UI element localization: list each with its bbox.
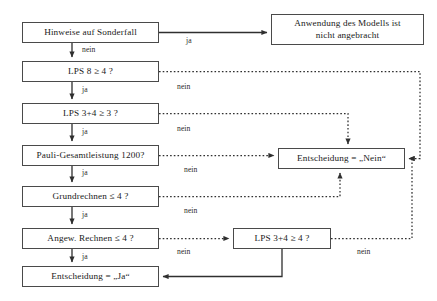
node-lps-8-ge-4[interactable]: LPS 8 ≥ 4 ? [22,61,159,82]
edge-lps34-4-nein [331,159,412,239]
node-entscheidung-ja[interactable]: Entscheidung = „Ja“ [22,266,159,287]
node-angew-rechnen-le-4[interactable]: Angew. Rechnen ≤ 4 ? [22,228,159,249]
node-anwendung-nicht-angebracht[interactable]: Anwendung des Modells ist nicht angebrac… [271,14,424,45]
edge-label-ja-lps8: ja [82,85,88,94]
edge-label-nein-lps34-4: nein [357,247,370,256]
node-lps-3plus4-ge-4[interactable]: LPS 3+4 ≥ 4 ? [233,228,331,249]
edge-label-nein-lps34-3: nein [177,124,190,133]
flowchart-canvas: Hinweise auf Sonderfall Anwendung des Mo… [0,0,437,301]
edge-label-nein-hinweise: nein [82,45,95,54]
edge-label-ja-pauli: ja [82,168,88,177]
edge-label-nein-lps8: nein [177,82,190,91]
node-entscheidung-nein[interactable]: Entscheidung = „Nein“ [278,148,405,169]
node-lps-3plus4-ge-3[interactable]: LPS 3+4 ≥ 3 ? [22,103,159,124]
edge-lps8-nein [159,72,420,159]
edge-label-nein-pauli: nein [184,165,197,174]
edge-grundrechnen-nein [159,173,340,197]
node-grundrechnen-le-4[interactable]: Grundrechnen ≤ 4 ? [22,186,159,207]
edge-label-ja-lps34-3: ja [82,127,88,136]
edge-label-nein-grundrechnen: nein [184,206,197,215]
edge-label-nein-angew: nein [177,247,190,256]
node-pauli-gesamtleistung-1200[interactable]: Pauli-Gesamtleistung 1200? [22,145,159,166]
edge-label-ja-hinweise: ja [186,36,192,45]
node-hinweise-auf-sonderfall[interactable]: Hinweise auf Sonderfall [22,22,159,43]
edge-label-ja-grundrechnen: ja [82,210,88,219]
edge-label-ja-angew: ja [82,252,88,261]
